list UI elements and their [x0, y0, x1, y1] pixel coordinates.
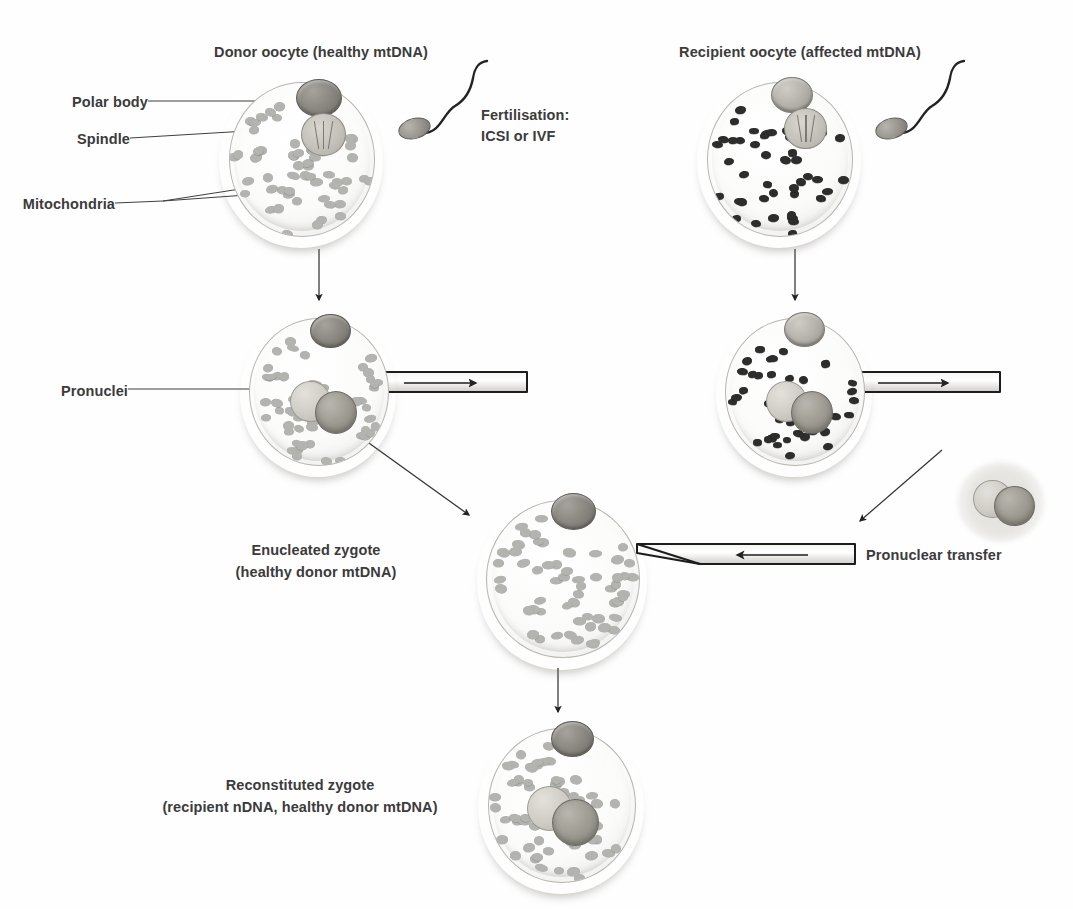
karyoplast-pronucleus-2 [994, 486, 1035, 526]
mitochondrion [783, 437, 792, 444]
mitochondrion [779, 347, 789, 355]
mitochondrion [760, 133, 769, 140]
spindle [784, 108, 827, 150]
sperm-icon-recipient [873, 114, 911, 143]
micropipette-transfer [637, 544, 855, 564]
mitochondrion [584, 622, 596, 632]
mitochondrion [489, 793, 501, 801]
mitochondrion [273, 204, 285, 214]
mitochondrion [767, 213, 779, 222]
mitochondrion [365, 353, 378, 363]
mitochondrion [347, 152, 358, 162]
cell-donor-zygote [237, 305, 399, 477]
polar-body [296, 79, 342, 117]
mitochondrion [846, 387, 857, 396]
mitochondrion [366, 429, 375, 437]
label-enucleated-line2: (healthy donor mtDNA) [206, 562, 426, 583]
mitochondrion [510, 851, 521, 861]
mitochondrion [738, 170, 749, 179]
mitochondrion [623, 559, 634, 568]
mitochondrion [562, 547, 577, 558]
cell-reconstituted-zygote [475, 714, 647, 894]
diagram-canvas: Donor oocyte (healthy mtDNA) Recipient o… [0, 0, 1073, 909]
label-reconstituted-line2: (recipient nDNA, healthy donor mtDNA) [110, 797, 490, 818]
spindle [301, 113, 346, 156]
mitochondrion [834, 133, 845, 142]
label-donor-oocyte: Donor oocyte (healthy mtDNA) [181, 42, 461, 63]
label-spindle: Spindle [0, 129, 130, 150]
mitochondrion [609, 798, 621, 809]
mitochondrion [260, 414, 271, 422]
mitochondrion [838, 176, 849, 184]
mitochondrion [334, 200, 346, 208]
mitochondrion [531, 852, 543, 861]
mitochondrion [290, 138, 301, 147]
mitochondrion [612, 573, 623, 583]
mitochondrion [773, 442, 783, 448]
mitochondrion [822, 442, 833, 451]
pronucleus-paternal [552, 799, 599, 846]
mitochondrion [763, 181, 772, 189]
mitochondrion [724, 157, 735, 166]
mitochondrion [847, 379, 857, 387]
mitochondrion [617, 543, 628, 552]
cell-recipient-oocyte [694, 68, 864, 248]
mitochondrion [590, 573, 602, 581]
mitochondrion [496, 835, 508, 844]
mitochondrion [736, 368, 747, 376]
mitochondrion [496, 547, 510, 558]
mitochondrion [284, 187, 295, 195]
mitochondrion [293, 161, 304, 171]
mitochondrion [571, 635, 585, 645]
mitochondrion [761, 151, 772, 160]
mitochondrion [282, 229, 294, 237]
mitochondrion [335, 212, 346, 220]
mitochondrion [730, 118, 740, 126]
mitochondrion [589, 549, 602, 557]
label-mitochondria: Mitochondria [0, 194, 115, 215]
mitochondrion [278, 371, 290, 382]
mitochondrion [553, 866, 563, 873]
mitochondrion [274, 101, 286, 111]
mitochondrion [758, 194, 769, 202]
polar-body [784, 312, 825, 347]
mitochondrion [542, 847, 554, 855]
mitochondrion [363, 177, 375, 186]
mitochondrion [323, 200, 335, 209]
mitochondrion [275, 407, 285, 415]
mitochondrion [584, 850, 598, 861]
mitochondrion [260, 398, 271, 407]
cell-donor-oocyte [216, 68, 386, 248]
cell-enucleated-zygote [473, 486, 651, 670]
mitochondrion [609, 613, 623, 622]
mitochondrion [241, 176, 254, 186]
label-recipient-oocyte: Recipient oocyte (affected mtDNA) [650, 42, 950, 63]
mitochondrion [292, 452, 303, 461]
mitochondrion [299, 351, 310, 360]
mitochondrion [509, 546, 523, 556]
mitochondrion [790, 155, 802, 164]
mitochondrion [295, 440, 308, 451]
mitochondrion [611, 554, 625, 565]
mitochondrion [262, 363, 273, 373]
label-reconstituted-line1: Reconstituted zygote [130, 775, 470, 796]
mitochondrion [736, 197, 747, 206]
mitochondrion [265, 184, 278, 194]
mitochondrion [562, 601, 574, 610]
mitochondrion [533, 596, 546, 606]
mitochondrion [345, 141, 357, 151]
mitochondrion [735, 105, 747, 115]
mitochondrion [812, 176, 823, 183]
mitochondrion [785, 452, 796, 461]
label-fertilisation-line1: Fertilisation: [481, 105, 569, 126]
mitochondrion [263, 173, 274, 182]
mitochondrion [575, 581, 586, 590]
mitochondrion [494, 583, 507, 594]
mitochondrion [741, 355, 753, 365]
mitochondrion [787, 229, 797, 236]
mitochondrion [271, 346, 282, 356]
mitochondrion [779, 155, 791, 165]
leader-mitochondria-stem [115, 201, 163, 203]
sperm-icon-donor [396, 114, 434, 143]
mitochondrion [749, 128, 759, 135]
